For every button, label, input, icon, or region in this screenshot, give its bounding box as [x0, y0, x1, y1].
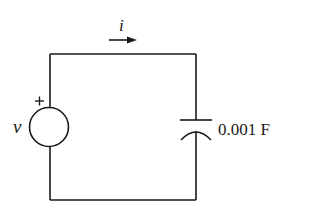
capacitor-value-label: 0.001 F: [218, 120, 270, 139]
voltage-source-icon: [30, 108, 69, 147]
circuit-diagram: i v 0.001 F: [0, 0, 309, 214]
source-label: v: [13, 116, 22, 137]
current-arrow-head: [127, 37, 137, 44]
current-label: i: [119, 16, 124, 35]
